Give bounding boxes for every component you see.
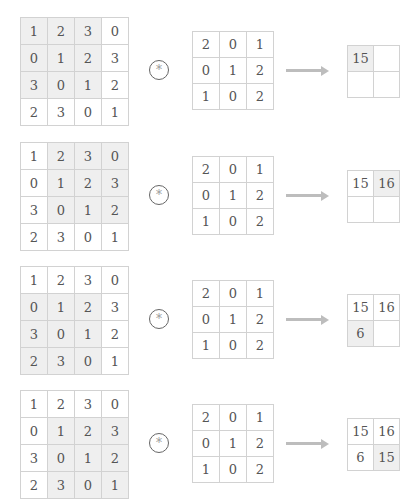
- output-cell: 15: [348, 171, 374, 197]
- input-cell: 0: [21, 170, 48, 197]
- kernel-cell: 2: [247, 58, 274, 84]
- input-cell: 2: [21, 472, 48, 499]
- input-cell: 1: [102, 472, 129, 499]
- input-cell: 0: [75, 348, 102, 375]
- output-cell: 16: [374, 419, 400, 445]
- input-cell: 1: [21, 143, 48, 170]
- output-cell: [374, 197, 400, 223]
- input-cell: 3: [75, 18, 102, 45]
- input-cell: 3: [48, 348, 75, 375]
- input-cell: 1: [21, 18, 48, 45]
- convolution-step-2: 1230012330122301*2010121021516: [0, 125, 420, 250]
- kernel-matrix: 201012102: [192, 280, 274, 359]
- kernel-matrix: 201012102: [192, 31, 274, 110]
- input-cell: 3: [102, 294, 129, 321]
- kernel-cell: 0: [193, 183, 220, 209]
- kernel-cell: 2: [247, 457, 274, 483]
- input-cell: 1: [75, 197, 102, 224]
- input-matrix: 1230012330122301: [20, 17, 129, 126]
- output-cell: [348, 197, 374, 223]
- input-cell: 2: [75, 294, 102, 321]
- kernel-cell: 1: [247, 405, 274, 431]
- input-cell: 1: [48, 170, 75, 197]
- arrow-right-icon: [286, 194, 322, 197]
- input-cell: 1: [102, 224, 129, 251]
- input-cell: 2: [102, 321, 129, 348]
- kernel-matrix: 201012102: [192, 404, 274, 483]
- kernel-cell: 2: [247, 183, 274, 209]
- input-cell: 1: [21, 267, 48, 294]
- input-cell: 0: [21, 294, 48, 321]
- kernel-cell: 0: [220, 209, 247, 235]
- input-matrix: 1230012330122301: [20, 142, 129, 251]
- kernel-cell: 1: [220, 58, 247, 84]
- input-cell: 2: [75, 418, 102, 445]
- kernel-cell: 2: [247, 84, 274, 110]
- convolution-operator-icon: *: [149, 309, 169, 329]
- output-matrix: 15166: [347, 294, 400, 347]
- kernel-cell: 0: [193, 58, 220, 84]
- output-matrix: 1516: [347, 170, 400, 223]
- input-cell: 1: [75, 72, 102, 99]
- input-matrix: 1230012330122301: [20, 266, 129, 375]
- kernel-cell: 1: [247, 281, 274, 307]
- kernel-cell: 2: [247, 209, 274, 235]
- output-cell: 15: [348, 295, 374, 321]
- convolution-operator-icon: *: [149, 60, 169, 80]
- input-cell: 2: [21, 348, 48, 375]
- input-matrix: 1230012330122301: [20, 390, 129, 499]
- kernel-cell: 0: [193, 307, 220, 333]
- input-cell: 2: [102, 445, 129, 472]
- input-cell: 3: [48, 472, 75, 499]
- input-cell: 2: [75, 45, 102, 72]
- input-cell: 1: [48, 294, 75, 321]
- kernel-cell: 0: [220, 32, 247, 58]
- kernel-cell: 2: [247, 431, 274, 457]
- convolution-step-3: 1230012330122301*20101210215166: [0, 249, 420, 374]
- output-cell: [348, 72, 374, 98]
- input-cell: 0: [48, 197, 75, 224]
- output-matrix: 15: [347, 45, 400, 98]
- kernel-cell: 2: [193, 281, 220, 307]
- input-cell: 0: [21, 45, 48, 72]
- input-cell: 3: [102, 170, 129, 197]
- input-cell: 0: [102, 267, 129, 294]
- convolution-operator-icon: *: [149, 433, 169, 453]
- input-cell: 0: [75, 99, 102, 126]
- kernel-cell: 1: [193, 333, 220, 359]
- input-cell: 0: [21, 418, 48, 445]
- input-cell: 2: [102, 197, 129, 224]
- kernel-cell: 0: [220, 157, 247, 183]
- kernel-cell: 0: [220, 405, 247, 431]
- kernel-cell: 2: [193, 405, 220, 431]
- arrow-right-icon: [286, 69, 322, 72]
- input-cell: 2: [48, 391, 75, 418]
- output-cell: 6: [348, 321, 374, 347]
- convolution-operator-icon: *: [149, 185, 169, 205]
- kernel-cell: 2: [247, 333, 274, 359]
- output-matrix: 1516615: [347, 418, 400, 471]
- input-cell: 2: [21, 99, 48, 126]
- kernel-cell: 1: [247, 157, 274, 183]
- output-cell: 15: [348, 46, 374, 72]
- input-cell: 0: [75, 472, 102, 499]
- input-cell: 2: [21, 224, 48, 251]
- kernel-cell: 0: [220, 333, 247, 359]
- output-cell: [374, 72, 400, 98]
- output-cell: [374, 321, 400, 347]
- input-cell: 1: [21, 391, 48, 418]
- convolution-step-1: 1230012330122301*20101210215: [0, 0, 420, 125]
- kernel-cell: 1: [193, 84, 220, 110]
- input-cell: 3: [102, 45, 129, 72]
- output-cell: 15: [348, 419, 374, 445]
- input-cell: 3: [75, 391, 102, 418]
- input-cell: 3: [48, 224, 75, 251]
- arrow-right-icon: [286, 318, 322, 321]
- kernel-cell: 0: [193, 431, 220, 457]
- kernel-cell: 2: [193, 157, 220, 183]
- output-cell: 6: [348, 445, 374, 471]
- input-cell: 1: [48, 45, 75, 72]
- input-cell: 0: [75, 224, 102, 251]
- kernel-cell: 0: [220, 84, 247, 110]
- kernel-cell: 1: [247, 32, 274, 58]
